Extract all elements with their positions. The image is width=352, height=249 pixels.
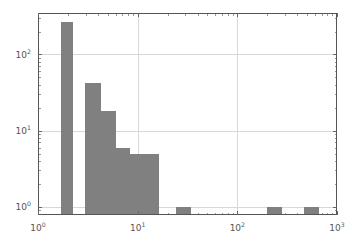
histogram-bar — [116, 148, 130, 215]
x-tick-label: 103 — [329, 221, 344, 233]
figure-canvas: 100101102103 100101102 — [0, 0, 352, 249]
y-axis-tick-labels: 100101102 — [16, 48, 31, 212]
histogram-bar — [85, 83, 101, 215]
histogram-bar — [176, 207, 191, 215]
histogram-bar — [267, 207, 282, 215]
axes-frame — [39, 14, 337, 215]
x-tick-label: 101 — [130, 221, 145, 233]
y-tick-label: 100 — [16, 200, 31, 212]
histogram-chart: 100101102103 100101102 — [0, 0, 352, 249]
major-ticks-group — [38, 13, 338, 215]
histogram-bar — [130, 154, 159, 215]
x-tick-label: 100 — [30, 221, 45, 233]
bars-group — [61, 22, 319, 215]
histogram-bar — [61, 22, 73, 215]
gridlines-group — [38, 13, 337, 215]
histogram-bar — [304, 207, 319, 215]
minor-ticks-group — [38, 13, 337, 215]
y-tick-label: 101 — [16, 124, 31, 136]
histogram-bar — [101, 111, 116, 215]
x-tick-label: 102 — [230, 221, 245, 233]
x-axis-tick-labels: 100101102103 — [30, 221, 344, 233]
y-tick-label: 102 — [16, 48, 31, 60]
